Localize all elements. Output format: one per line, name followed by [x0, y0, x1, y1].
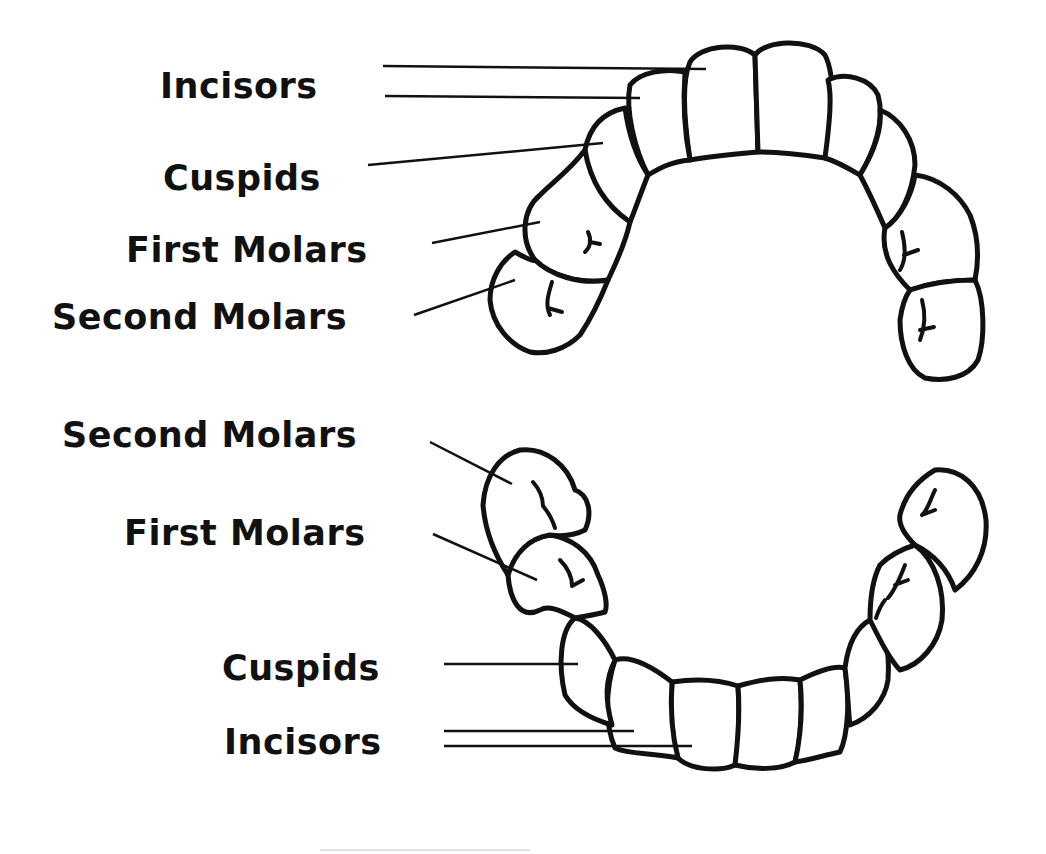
teeth-diagram: Incisors Cuspids First Molars Second Mol…	[0, 0, 1046, 854]
bottom-divider	[320, 849, 530, 851]
lower-arch	[483, 450, 986, 769]
upper-central-incisor-right	[755, 43, 833, 158]
upper-central-incisor-left	[685, 47, 758, 160]
lower-cuspid-left	[561, 618, 615, 725]
upper-second-molar-right	[900, 280, 983, 379]
lower-central-incisor-right	[735, 678, 801, 768]
teeth-illustration	[0, 0, 1046, 854]
upper-arch	[490, 43, 983, 379]
lower-central-incisor-left	[671, 680, 739, 769]
lower-lateral-incisor-left	[608, 659, 679, 758]
lower-lateral-incisor-right	[795, 667, 848, 762]
